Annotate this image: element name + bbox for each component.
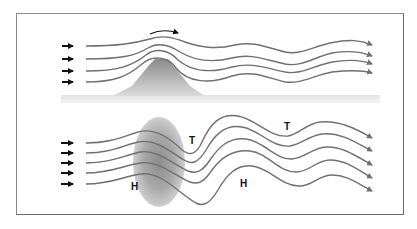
high-pressure-area: [133, 117, 185, 207]
streamline: [86, 37, 372, 53]
low-label: T: [284, 121, 290, 132]
high-label: H: [131, 181, 138, 192]
low-label: T: [189, 135, 195, 146]
high-label: H: [240, 178, 247, 189]
bottom-inflow-arrows: [61, 143, 73, 184]
bottom-streamlines: [86, 116, 372, 205]
streamline: [86, 45, 372, 65]
top-panel: [61, 31, 380, 103]
bottom-panel: H T H T: [61, 116, 372, 207]
streamline: [86, 139, 372, 172]
top-streamlines: [86, 37, 372, 82]
airflow-diagram: H T H T: [0, 0, 417, 229]
ground-strip: [61, 95, 380, 103]
mountain-shape: [112, 59, 205, 96]
curved-arrow-icon: [150, 31, 178, 34]
streamline: [86, 166, 372, 205]
streamline: [86, 58, 372, 82]
top-inflow-arrows: [62, 46, 73, 82]
streamline: [86, 127, 372, 163]
